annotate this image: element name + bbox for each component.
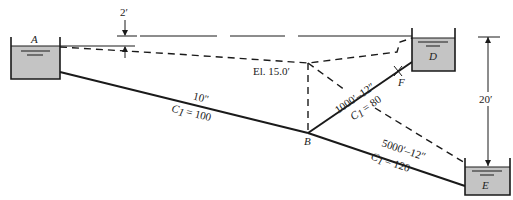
pipe-b-d-labels: 1000′–12″ C1= 80	[332, 80, 385, 129]
pipe-b-e-labels: 5000′–12″ C1= 120	[369, 135, 427, 180]
pipe-a-b-size: 10"	[192, 90, 210, 105]
d-to-e-dimension: 20′	[478, 37, 500, 166]
reservoir-a: A	[11, 33, 60, 79]
junction-b-label: B	[304, 135, 311, 147]
elevation-label: El. 15.0′	[253, 65, 290, 77]
pipe-a-b-coef: C1= 100	[170, 102, 213, 125]
d-to-e-label: 20′	[479, 93, 492, 105]
valve-f-marker	[394, 66, 402, 76]
pipe-network-diagram: 2′ A D E	[0, 0, 513, 200]
reservoir-e-label: E	[481, 179, 489, 191]
reservoir-d: D	[412, 28, 455, 71]
pipe-a-b	[60, 72, 308, 133]
head-diff-label: 2′	[120, 6, 128, 18]
reservoir-d-label: D	[428, 50, 437, 62]
reservoir-a-label: A	[30, 33, 38, 45]
junction-f-label: F	[397, 76, 405, 88]
